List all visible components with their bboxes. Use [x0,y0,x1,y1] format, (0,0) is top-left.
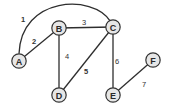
edge-weight-label: 4 [65,52,69,61]
edge-weight-label: 6 [115,57,119,66]
node-d: D [52,88,66,102]
edge-weight-label: 1 [21,15,25,24]
node-label: F [150,56,156,66]
edge-weight-label: 3 [82,18,86,27]
node-label: D [56,91,63,101]
node-f: F [146,53,160,67]
node-label: E [110,91,116,101]
graph-diagram: 1234567 ABCDEF [0,0,169,112]
edge-b-c [59,27,113,28]
edge-weight-label: 7 [142,80,146,89]
node-label: C [110,23,117,33]
node-c: C [106,20,120,34]
node-b: B [52,21,66,35]
edge-labels-layer: 1234567 [21,15,146,89]
edge-weight-label: 5 [84,67,88,76]
node-e: E [106,88,120,102]
node-label: A [16,57,23,67]
edge-weight-label: 2 [32,37,36,46]
node-a: A [12,54,26,68]
edge-c-d [59,27,113,95]
node-label: B [56,24,63,34]
